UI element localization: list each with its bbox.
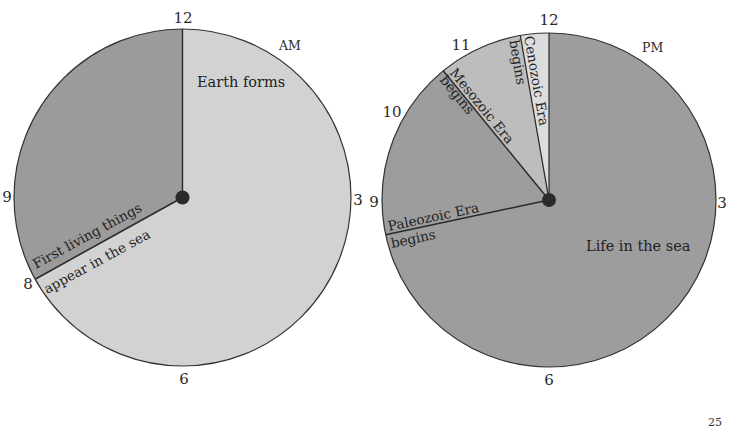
am-hour-8: 8 (23, 275, 33, 293)
am-hour-9: 9 (2, 188, 12, 206)
am-hour-3: 3 (353, 191, 363, 209)
pm-hour-11: 11 (451, 36, 470, 54)
geologic-clock-diagram: 12 3 6 9 8 AM Earth forms First living t… (0, 0, 736, 435)
page-number: 25 (708, 416, 722, 429)
pm-hour-10: 10 (382, 103, 401, 121)
label-earth-forms: Earth forms (197, 74, 285, 90)
am-period-label: AM (278, 38, 301, 53)
pm-hour-6: 6 (544, 371, 554, 389)
pm-clock: 12 11 10 9 3 6 PM Life in the sea Paleoz… (369, 11, 727, 389)
am-hour-12: 12 (173, 9, 192, 27)
pm-hour-12: 12 (539, 11, 558, 29)
am-hour-6: 6 (179, 370, 189, 388)
pm-period-label: PM (642, 40, 663, 55)
label-life-in-sea: Life in the sea (586, 238, 691, 254)
pm-center-hub (542, 193, 556, 207)
am-center-hub (176, 191, 190, 205)
pm-hour-9: 9 (369, 193, 379, 211)
pm-hour-3: 3 (717, 194, 727, 212)
am-clock: 12 3 6 9 8 AM Earth forms First living t… (2, 9, 363, 388)
